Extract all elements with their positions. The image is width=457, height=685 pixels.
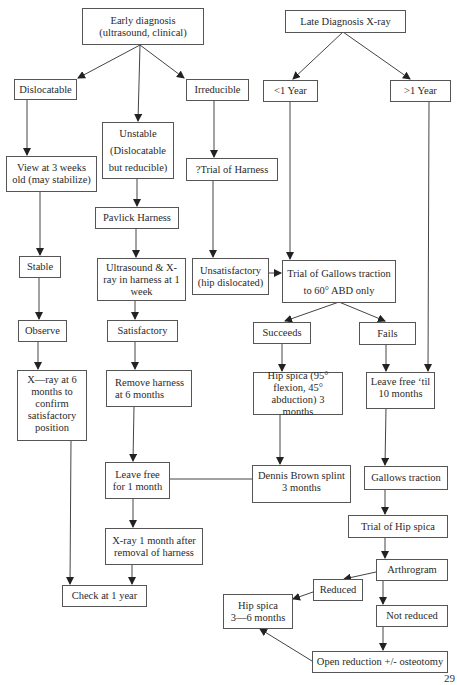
node-irreducible: Irreducible bbox=[186, 79, 249, 101]
node-dennis-brown-splint: Dennis Brown splint 3 months bbox=[252, 465, 351, 503]
node-arthrogram: Arthrogram bbox=[376, 559, 448, 581]
node-less-than-1-year: <1 Year bbox=[263, 80, 318, 102]
hip-dysplasia-flowchart: Early diagnosis (ultrasound, clinical) L… bbox=[0, 0, 457, 685]
node-not-reduced: Not reduced bbox=[376, 605, 448, 627]
node-view-at-3-weeks: View at 3 weeks old (may stabilize) bbox=[6, 156, 97, 192]
node-xray-1-month-after: X-ray 1 month after removal of harness bbox=[105, 528, 203, 565]
node-succeeds: Succeeds bbox=[253, 322, 311, 344]
node-unstable: Unstable (Dislocatable but reducible) bbox=[102, 122, 174, 179]
node-more-than-1-year: >1 Year bbox=[390, 80, 451, 102]
node-pavlick-harness: Pavlick Harness bbox=[95, 207, 179, 229]
node-satisfactory: Satisfactory bbox=[107, 320, 178, 342]
node-trial-of-hip-spica: Trial of Hip spica bbox=[348, 515, 448, 538]
node-trial-of-harness: ?Trial of Harness bbox=[186, 158, 278, 181]
node-ultrasound-xray: Ultrasound & X- ray in harness at 1 week bbox=[97, 258, 186, 301]
node-stable: Stable bbox=[19, 256, 61, 278]
page-number: 29 bbox=[444, 672, 455, 684]
node-hip-spica-3-months: Hip spica (95° flexion, 45° abduction) 3… bbox=[253, 372, 343, 415]
node-fails: Fails bbox=[359, 322, 416, 345]
node-trial-of-gallows-traction: Trial of Gallows traction to 60° ABD onl… bbox=[282, 260, 396, 303]
node-reduced: Reduced bbox=[313, 579, 363, 601]
node-remove-harness: Remove harness at 6 months bbox=[106, 370, 192, 407]
node-hip-spica-3-6-months: Hip spica 3—6 months bbox=[223, 594, 293, 629]
node-early-diagnosis: Early diagnosis (ultrasound, clinical) bbox=[82, 8, 204, 45]
node-observe: Observe bbox=[18, 320, 67, 342]
node-dislocatable: Dislocatable bbox=[14, 79, 77, 100]
node-late-diagnosis: Late Diagnosis X-ray bbox=[285, 10, 406, 33]
node-leave-free-til-10-months: Leave free ‘til 10 months bbox=[366, 372, 435, 409]
node-xray-at-6-months: X—ray at 6 months to confirm satisfactor… bbox=[17, 370, 87, 441]
node-open-reduction: Open reduction +/- osteotomy bbox=[312, 651, 448, 673]
node-check-at-1-year: Check at 1 year bbox=[62, 585, 147, 607]
node-gallows-traction: Gallows traction bbox=[364, 466, 448, 490]
node-leave-free-1-month: Leave free for 1 month bbox=[105, 462, 170, 499]
node-unsatisfactory: Unsatisfactory (hip dislocated) bbox=[192, 258, 269, 295]
